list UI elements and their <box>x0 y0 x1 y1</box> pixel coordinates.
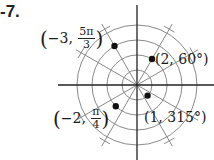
point-label-2-60deg: (2, 60°) <box>155 52 209 66</box>
polar-grid <box>0 0 214 160</box>
plotted-point <box>144 92 150 98</box>
point-label-1-315deg: (1, 315°) <box>144 110 206 124</box>
point-label-neg2-pi4: (−2, π4) <box>53 106 109 131</box>
radial-line <box>102 24 137 85</box>
plotted-point <box>113 103 119 109</box>
plotted-point <box>111 43 117 49</box>
radial-line <box>76 50 137 85</box>
point-label-neg3-5pi3: ((−3, −3, 5π3) <box>40 26 103 51</box>
